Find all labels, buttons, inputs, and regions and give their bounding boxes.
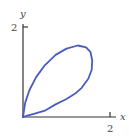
data-curve <box>23 46 92 118</box>
x-tick-label: 2 <box>107 123 113 134</box>
y-tick-label: 2 <box>11 22 17 33</box>
x-axis-label: x <box>120 111 126 122</box>
y-axis-label: y <box>19 8 26 19</box>
chart: y 2 x 2 <box>0 0 129 140</box>
